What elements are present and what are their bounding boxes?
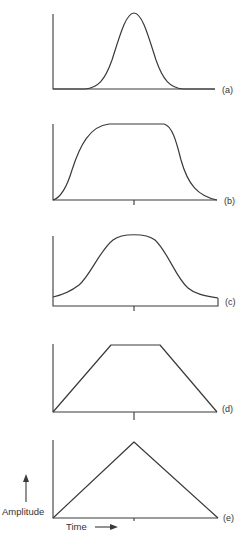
panel-e-label: (e) bbox=[223, 513, 234, 523]
panel-c-label: (c) bbox=[225, 297, 236, 307]
panel-b: (b) bbox=[53, 124, 235, 206]
panel-b-curve bbox=[53, 124, 217, 200]
panel-a-axes bbox=[53, 14, 215, 89]
panel-d-curve bbox=[53, 345, 217, 412]
panel-a-label: (a) bbox=[222, 85, 233, 95]
time-axis-annotation: Time bbox=[66, 521, 118, 532]
time-label: Time bbox=[66, 521, 87, 532]
panel-e: (e) bbox=[53, 440, 234, 523]
panel-e-axes bbox=[53, 440, 218, 521]
panel-d-label: (d) bbox=[222, 404, 233, 414]
panel-a-curve bbox=[53, 13, 215, 89]
panel-e-curve bbox=[53, 442, 218, 518]
pulse-shapes-diagram: (a) (b) (c) (d) (e) Amplitude Time bbox=[0, 0, 252, 545]
amplitude-arrow-icon bbox=[23, 474, 29, 482]
panel-c-curve bbox=[53, 235, 218, 298]
time-arrow-icon bbox=[110, 524, 118, 530]
panel-d-axes bbox=[53, 344, 217, 420]
amplitude-axis-annotation: Amplitude bbox=[2, 474, 44, 517]
panel-b-axes bbox=[53, 124, 217, 205]
panel-b-label: (b) bbox=[224, 196, 235, 206]
panel-d: (d) bbox=[53, 344, 233, 420]
panel-a: (a) bbox=[53, 13, 233, 95]
panel-c-axes bbox=[53, 236, 218, 311]
amplitude-label: Amplitude bbox=[2, 506, 44, 517]
panel-c: (c) bbox=[53, 235, 236, 311]
